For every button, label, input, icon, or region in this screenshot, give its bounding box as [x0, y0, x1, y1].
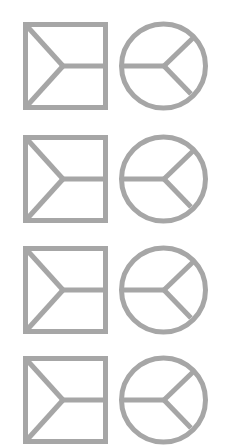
row-shapes: [0, 246, 227, 346]
circle-split-icon: [122, 358, 206, 442]
square-split-icon: [26, 249, 106, 332]
circle-split-icon: [122, 24, 206, 108]
shape-row-2: [0, 135, 227, 235]
shape-row-3: [0, 246, 227, 346]
shape-row-1: [0, 22, 227, 122]
square-split-icon: [26, 138, 106, 221]
row-shapes: [0, 356, 227, 447]
circle-split-icon: [122, 137, 206, 221]
square-split-icon: [26, 25, 106, 108]
square-split-icon: [26, 359, 106, 442]
circle-split-icon: [122, 248, 206, 332]
row-shapes: [0, 135, 227, 235]
row-shapes: [0, 22, 227, 122]
shape-row-4: [0, 356, 227, 447]
